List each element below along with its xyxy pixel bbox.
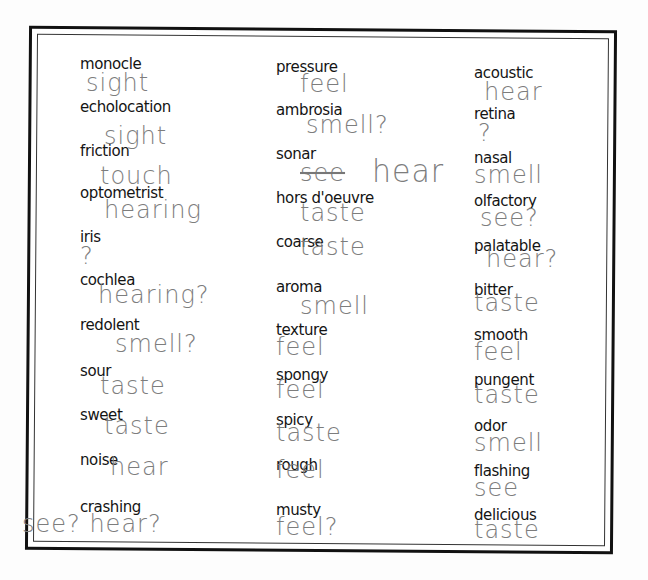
handwritten-answer: hear	[110, 454, 169, 479]
handwritten-answer: feel	[300, 71, 349, 96]
handwritten-answer: see? hear?	[22, 511, 162, 536]
handwritten-answer: feel	[276, 457, 325, 482]
handwritten-answer: taste	[300, 234, 366, 259]
handwritten-answer: feel?	[276, 514, 338, 539]
handwritten-answer: smell?	[306, 112, 389, 137]
handwritten-answer: smell	[474, 430, 543, 455]
struck-answer: see	[300, 160, 345, 185]
handwritten-answer: feel	[474, 339, 523, 364]
handwritten-answer: smell?	[115, 331, 198, 356]
vocab-word: echolocation	[80, 100, 171, 115]
handwritten-answer: feel	[276, 334, 325, 359]
handwritten-answer: ?	[478, 120, 492, 145]
handwritten-answer: hearing	[104, 197, 202, 222]
handwritten-answer: ?	[80, 243, 94, 268]
handwritten-answer: see	[474, 475, 519, 500]
handwritten-answer: hear	[484, 79, 543, 104]
handwritten-answer: sight	[86, 70, 149, 95]
handwritten-answer: taste	[474, 290, 540, 315]
handwritten-answer: hear	[372, 156, 444, 188]
handwritten-answer: feel	[276, 377, 325, 402]
handwritten-answer: smell	[474, 162, 543, 187]
handwritten-answer: hear?	[486, 246, 558, 271]
handwritten-answer: taste	[474, 382, 540, 407]
handwritten-answer: smell	[300, 293, 369, 318]
handwritten-answer: taste	[104, 413, 170, 438]
vocab-word: friction	[80, 144, 129, 159]
handwritten-answer: taste	[100, 373, 166, 398]
handwritten-answer: hearing?	[98, 282, 210, 307]
handwritten-answer: taste	[474, 517, 540, 542]
handwritten-answer: taste	[300, 200, 366, 225]
handwritten-answer: see?	[480, 205, 539, 230]
handwritten-answer: taste	[276, 420, 342, 445]
